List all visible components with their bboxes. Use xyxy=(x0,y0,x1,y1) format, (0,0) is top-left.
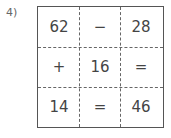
grid-cell: 46 xyxy=(120,87,162,127)
grid-cell: = xyxy=(79,87,121,127)
puzzle-grid: 62 − 28 + 16 = 14 = 46 xyxy=(37,6,164,128)
problem-number-text: 4) xyxy=(6,6,17,19)
grid-cell: 28 xyxy=(120,7,162,47)
problem-number: 4) xyxy=(6,6,20,20)
grid-cell: = xyxy=(120,47,162,87)
grid-cell: 16 xyxy=(79,47,121,87)
grid-cell: 14 xyxy=(38,87,80,127)
grid-cell: + xyxy=(38,47,80,87)
grid-cell: − xyxy=(79,7,121,47)
grid-cell: 62 xyxy=(38,7,80,47)
